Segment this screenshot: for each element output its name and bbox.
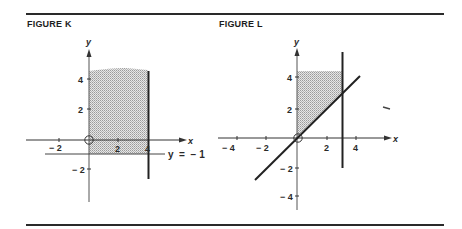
figure-l-y-tick-4: 4 [287,73,292,83]
figure-k-y-tick-4: 4 [78,75,83,85]
figure-k-x-label: x [187,136,194,146]
figure-l-x-tick-4: 4 [353,143,358,153]
figure-l-y-arrow-icon [295,48,300,56]
figure-k-x-tick-neg2: − 2 [49,143,62,153]
figure-k-y-tick-neg2: − 2 [72,165,85,175]
figure-l-y-tick-neg4: − 4 [280,192,293,202]
figure-l-x-tick-2: 2 [324,143,329,153]
figure-k-line-label: y = − 1 [168,149,205,160]
figure-l-y-tick-2: 2 [287,105,292,115]
figure-l-x-tick-neg4: − 4 [222,143,235,153]
figure-l-y-tick-neg2: − 2 [280,164,293,174]
figure-l-y-label: y [293,37,300,47]
figure-l-graph: − 4 − 2 2 4 4 2 − 2 − 4 x y [218,37,399,210]
figure-k-x-tick-2: 2 [115,144,120,154]
figure-k-y-label: y [85,37,92,47]
figure-k-x-arrow-icon [179,138,187,143]
figure-l-x-label: x [392,134,399,144]
figure-k-y-arrow-icon [87,49,92,57]
print-mark [383,107,390,109]
figure-k-y-tick-2: 2 [78,105,83,115]
figure-k-x-tick-4: 4 [145,144,150,154]
figure-k-graph: − 2 2 4 4 2 − 2 x y y = − 1 [26,37,205,202]
figure-l-x-arrow-icon [384,136,392,141]
figures-canvas: − 2 2 4 4 2 − 2 x y y = − 1 [0,0,462,229]
figure-l-shaded-region [297,71,342,138]
figure-l-x-tick-neg2: − 2 [256,143,269,153]
